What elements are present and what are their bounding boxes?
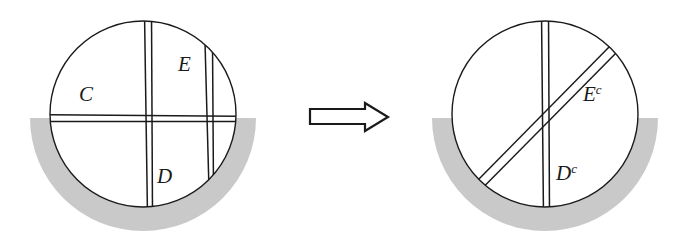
right-panel: Ec Dc <box>0 0 686 238</box>
figure-root: C E D <box>0 0 686 238</box>
label-D-complement-superscript: c <box>571 161 577 176</box>
label-D-complement-base: D <box>555 161 571 185</box>
label-E-complement-superscript: c <box>596 82 602 97</box>
figure-canvas: C E D <box>0 0 686 238</box>
label-E-complement-base: E <box>582 82 596 106</box>
